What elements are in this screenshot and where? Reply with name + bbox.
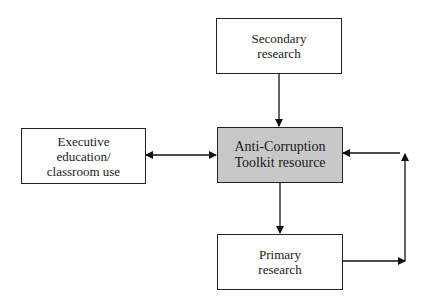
node-label-line: Anti-Corruption <box>235 139 326 155</box>
node-label-line: Executive <box>58 134 110 149</box>
node-label-line: Primary <box>259 247 301 262</box>
node-primary-research: Primary research <box>217 234 343 290</box>
node-label-line: classroom use <box>47 164 120 179</box>
node-secondary-research: Secondary research <box>216 18 342 74</box>
node-label-line: Toolkit resource <box>234 155 325 171</box>
node-label-line: Secondary <box>252 31 307 46</box>
node-executive-education: Executive education/ classroom use <box>21 128 146 184</box>
node-label-line: education/ <box>56 149 110 164</box>
node-label-line: research <box>258 262 301 277</box>
node-label-line: research <box>257 46 300 61</box>
node-anti-corruption-toolkit: Anti-Corruption Toolkit resource <box>217 127 343 183</box>
